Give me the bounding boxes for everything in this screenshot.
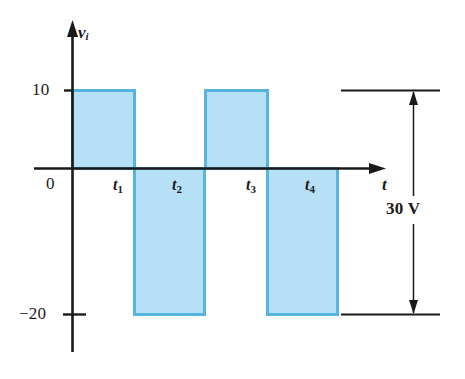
waveform-figure: vi 10 0 −20 t1 t2 t3 t4 t 30 V [0, 0, 465, 379]
time-marker-t3: t3 [246, 177, 256, 195]
waveform-svg [0, 0, 465, 379]
pulse-positive-1 [73, 91, 135, 169]
pulse-negative-1 [135, 169, 205, 315]
waveform-pulses [73, 91, 338, 315]
origin-label: 0 [46, 175, 55, 192]
y-tick-label-minus20: −20 [19, 305, 46, 322]
dimension-arrowhead-up [409, 91, 418, 105]
y-axis-label: vi [78, 24, 89, 42]
time-marker-t2: t2 [172, 177, 182, 195]
y-tick-label-10: 10 [32, 81, 49, 98]
time-marker-t4: t4 [305, 177, 315, 195]
voltage-span-label: 30 V [386, 200, 420, 217]
time-marker-t1: t1 [113, 177, 123, 195]
dimension-arrowhead-down [409, 300, 418, 314]
y-axis-arrowhead [67, 20, 78, 37]
x-axis-label: t [382, 176, 387, 193]
pulse-negative-2 [268, 169, 338, 315]
pulse-positive-2 [206, 91, 268, 169]
x-axis-arrowhead [369, 163, 386, 174]
